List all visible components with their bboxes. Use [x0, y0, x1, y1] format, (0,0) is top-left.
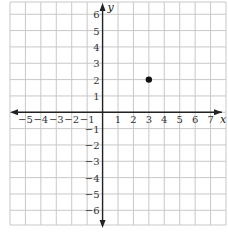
y-tick-label: 3: [93, 58, 99, 69]
y-axis-label: y: [107, 1, 115, 14]
x-tick-label: −5: [18, 114, 33, 125]
y-tick-label: 5: [93, 26, 99, 37]
y-tick-label: −2: [85, 140, 100, 151]
y-tick-label: 6: [93, 9, 99, 20]
y-tick-label: −3: [85, 156, 100, 167]
y-axis-up-arrow-icon: [100, 3, 106, 11]
y-tick-label: −5: [85, 189, 100, 200]
data-point: [146, 76, 152, 82]
y-tick-label: 2: [93, 75, 99, 86]
data-points: [146, 76, 152, 82]
y-axis-down-arrow-icon: [100, 220, 106, 228]
x-tick-label: −2: [64, 114, 79, 125]
y-tick-label: 1: [93, 91, 99, 102]
x-tick-labels: −5−4−3−2−11234567: [18, 114, 214, 125]
y-tick-label: −6: [85, 205, 100, 216]
x-tick-label: 4: [161, 114, 167, 125]
x-tick-label: 6: [192, 114, 198, 125]
y-tick-label: −4: [85, 173, 100, 184]
x-axis-label: x: [220, 113, 227, 126]
x-axis-left-arrow-icon: [10, 109, 18, 115]
coordinate-plane: −5−4−3−2−11234567 654321−1−2−3−4−5−6 x y: [0, 0, 228, 232]
y-tick-label: 4: [93, 42, 99, 53]
x-tick-label: 5: [177, 114, 183, 125]
x-tick-label: 3: [146, 114, 152, 125]
x-tick-label: −4: [33, 114, 48, 125]
x-tick-label: 7: [207, 114, 213, 125]
y-tick-label: −1: [85, 124, 100, 135]
x-tick-label: 2: [130, 114, 136, 125]
x-tick-label: 1: [115, 114, 121, 125]
x-tick-label: −3: [49, 114, 64, 125]
